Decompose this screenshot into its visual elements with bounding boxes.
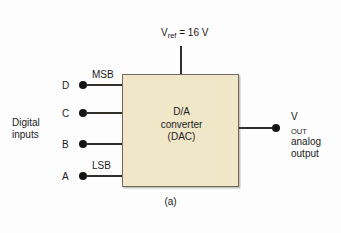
vref-value: = 16 V xyxy=(176,27,208,38)
dac-block-label-line-1: D/A xyxy=(123,106,240,119)
digital-inputs-label: Digital inputs xyxy=(12,117,60,141)
digital-inputs-label-line-2: inputs xyxy=(12,129,60,141)
digital-inputs-label-line-1: Digital xyxy=(12,117,60,129)
figure-caption: (a) xyxy=(0,196,341,207)
dac-block-label-line-3: (DAC) xyxy=(123,131,240,144)
vref-symbol: V xyxy=(161,27,168,38)
dac-block: D/A converter (DAC) xyxy=(122,74,239,187)
vref-subscript: ref xyxy=(168,31,177,40)
vref-wire xyxy=(180,46,182,75)
dac-block-label: D/A converter (DAC) xyxy=(123,106,240,144)
input-pin-label-b: B xyxy=(62,139,69,150)
vref-label: Vref = 16 V xyxy=(161,27,208,39)
output-label: VOUT analog output xyxy=(291,111,339,160)
input-wire-c xyxy=(86,112,123,114)
input-pin-label-a: A xyxy=(62,171,69,182)
lsb-label: LSB xyxy=(92,160,111,171)
input-wire-a xyxy=(86,175,123,177)
vout-subscript: OUT xyxy=(291,127,307,136)
output-label-line-3: output xyxy=(291,148,339,160)
dac-block-diagram: Vref = 16 V Digital inputs D MSB C B A L… xyxy=(0,0,341,233)
dac-block-label-line-2: converter xyxy=(123,119,240,132)
vout-symbol-line: VOUT xyxy=(291,111,339,136)
input-pin-label-d: D xyxy=(62,80,69,91)
vout-symbol: V xyxy=(291,111,339,123)
input-wire-d xyxy=(86,84,123,86)
output-label-line-2: analog xyxy=(291,136,339,148)
msb-label: MSB xyxy=(92,69,114,80)
input-pin-label-c: C xyxy=(62,108,69,119)
output-node-dot xyxy=(272,124,280,132)
input-wire-b xyxy=(86,143,123,145)
